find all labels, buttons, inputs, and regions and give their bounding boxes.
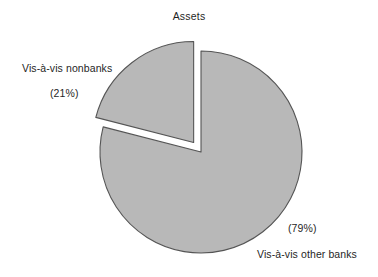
- slice-label-vis-a-vis-other-banks: Vis-à-vis other banks: [257, 248, 357, 260]
- slice-label-vis-a-vis-nonbanks: Vis-à-vis nonbanks: [22, 62, 112, 74]
- pie-chart-figure: Assets Vis-à-vis nonbanks (21%) (79%) Vi…: [0, 0, 378, 277]
- pie-slice-vis-a-vis-nonbanks: [96, 42, 194, 143]
- slice-value-vis-a-vis-other-banks: (79%): [288, 222, 317, 234]
- pie-slices-group: [96, 42, 302, 253]
- pie-chart-canvas: [0, 0, 378, 277]
- slice-value-vis-a-vis-nonbanks: (21%): [50, 87, 79, 99]
